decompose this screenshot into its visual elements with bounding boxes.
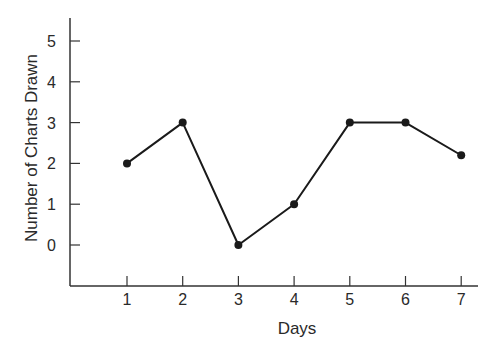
x-tick-label: 1 <box>123 291 132 308</box>
y-tick-label: 3 <box>47 115 56 132</box>
x-tick-label: 3 <box>234 291 243 308</box>
y-tick-label: 0 <box>47 237 56 254</box>
data-point <box>179 119 187 127</box>
x-tick-label: 5 <box>345 291 354 308</box>
x-tick-label: 6 <box>401 291 410 308</box>
y-tick-label: 2 <box>47 155 56 172</box>
data-point <box>123 159 131 167</box>
data-series <box>123 119 465 249</box>
data-point <box>457 151 465 159</box>
line-chart: 012345 1234567 Days Number of Charts Dra… <box>0 0 497 364</box>
data-point <box>402 119 410 127</box>
y-tick-label: 4 <box>47 74 56 91</box>
axes <box>70 18 478 286</box>
x-axis-title: Days <box>278 319 317 338</box>
data-point <box>234 241 242 249</box>
y-tick-label: 1 <box>47 196 56 213</box>
series-line <box>127 123 461 245</box>
x-tick-label: 2 <box>178 291 187 308</box>
y-tick-label: 5 <box>47 33 56 50</box>
x-tick-label: 7 <box>457 291 466 308</box>
data-point <box>346 119 354 127</box>
data-point <box>290 200 298 208</box>
y-axis-title: Number of Charts Drawn <box>22 54 41 242</box>
x-ticks: 1234567 <box>123 276 466 308</box>
x-tick-label: 4 <box>290 291 299 308</box>
y-ticks: 012345 <box>47 33 80 254</box>
